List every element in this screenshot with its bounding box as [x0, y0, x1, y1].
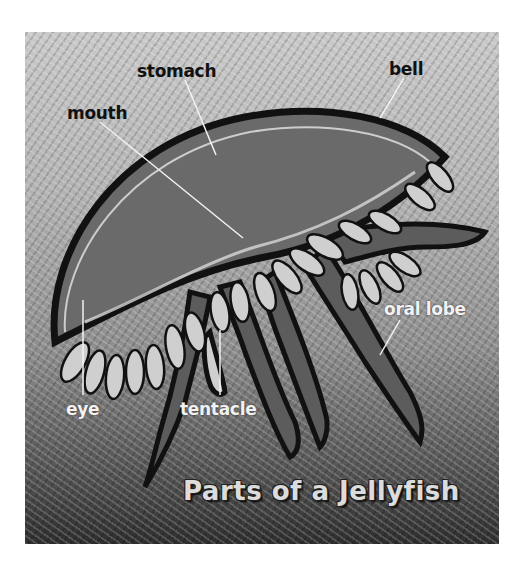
label-mouth: mouth — [67, 104, 127, 122]
label-oral-lobe: oral lobe — [384, 300, 466, 318]
label-stomach: stomach — [137, 62, 216, 80]
figure-title: Parts of a Jellyfish — [183, 476, 460, 506]
label-eye: eye — [66, 400, 99, 418]
label-tentacle: tentacle — [180, 400, 256, 418]
label-bell: bell — [389, 60, 423, 78]
jellyfish-illustration: stomach bell mouth oral lobe eye tentacl… — [25, 32, 499, 544]
